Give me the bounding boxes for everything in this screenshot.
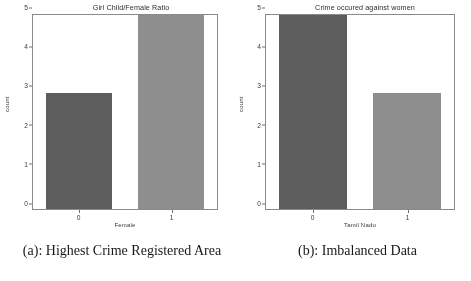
x-axis-ticks-b: 0 1 [265, 210, 455, 222]
plot-area-b [265, 14, 455, 210]
y-tick-label: 4 [24, 43, 28, 50]
panel-caption-a: (a): Highest Crime Registered Area [0, 243, 244, 259]
y-tick-label: 0 [24, 200, 28, 207]
y-axis-ticks-b: 0 1 2 3 4 5 [237, 14, 265, 210]
figure-two-panel-countplots: Girl Child/Female Ratio count 0 1 2 3 4 … [0, 0, 471, 281]
bar-slot [125, 15, 217, 209]
x-axis-ticks-a: 0 1 [32, 210, 218, 222]
x-tick-label: 1 [125, 210, 218, 222]
y-tick-label: 1 [257, 160, 261, 167]
bar-slot [33, 15, 125, 209]
y-tick-label: 1 [24, 160, 28, 167]
x-tick-label: 0 [32, 210, 125, 222]
x-axis-label-a: Female [32, 222, 218, 228]
y-tick-label: 3 [257, 82, 261, 89]
x-tick-label: 0 [265, 210, 360, 222]
y-tick-label: 5 [257, 4, 261, 11]
plot-area-a [32, 14, 218, 210]
y-tick-label: 2 [257, 121, 261, 128]
y-tick-label: 0 [257, 200, 261, 207]
y-axis-ticks-a: 0 1 2 3 4 5 [2, 14, 32, 210]
y-tick-label: 4 [257, 43, 261, 50]
bar-slot [266, 15, 360, 209]
x-axis-label-b: Tamil Nadu [265, 222, 455, 228]
chart-title-b: Crime occured against women [237, 3, 469, 12]
x-tick-label: 1 [360, 210, 455, 222]
y-tick-label: 3 [24, 82, 28, 89]
y-tick-label: 5 [24, 4, 28, 11]
chart-panel-b: Crime occured against women count 0 1 2 … [237, 0, 469, 240]
bar-series-b [266, 15, 454, 209]
chart-panel-a: Girl Child/Female Ratio count 0 1 2 3 4 … [2, 0, 234, 240]
bar-category-0 [279, 15, 347, 209]
bar-category-1 [138, 15, 204, 209]
chart-title-a: Girl Child/Female Ratio [2, 3, 234, 12]
bar-slot [360, 15, 454, 209]
bar-category-0 [46, 93, 112, 209]
bar-series-a [33, 15, 217, 209]
bar-category-1 [373, 93, 441, 209]
panel-caption-b: (b): Imbalanced Data [244, 243, 471, 259]
y-tick-label: 2 [24, 121, 28, 128]
